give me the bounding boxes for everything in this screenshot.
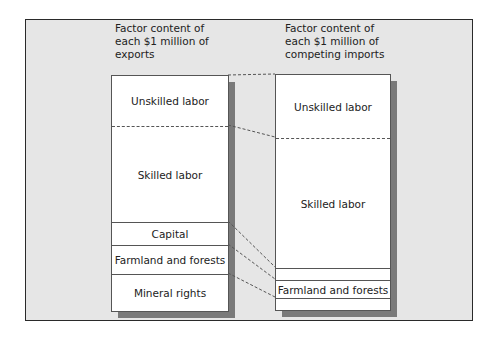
- connector-mineral-rights: [228, 273, 275, 297]
- connector-capital: [228, 221, 275, 267]
- connector-top: [228, 74, 275, 75]
- connector-farmland: [228, 244, 275, 279]
- connector-lines: [0, 0, 497, 340]
- connector-unskilled-skilled: [228, 125, 275, 137]
